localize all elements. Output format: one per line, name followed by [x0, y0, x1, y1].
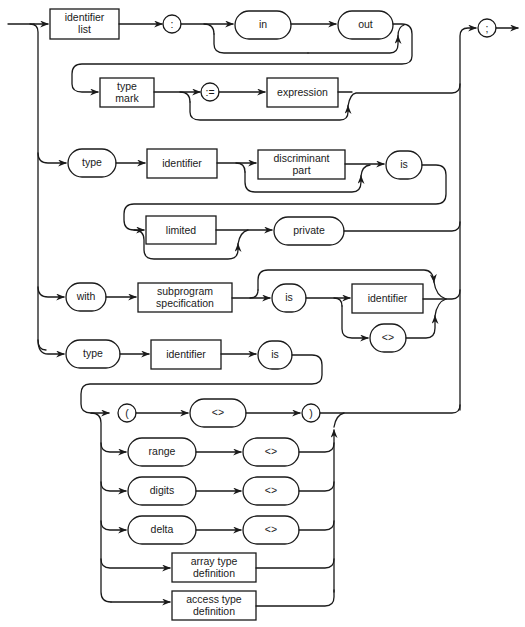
row-delta: delta <> [128, 516, 334, 544]
right-rail: ; [460, 19, 518, 410]
node-assign: := [201, 83, 219, 101]
svg-text:subprogram: subprogram [157, 285, 213, 297]
svg-text:in: in [259, 18, 267, 30]
node-is-1: is [386, 151, 422, 179]
row-digits: digits <> [128, 477, 334, 505]
svg-text:type: type [117, 80, 137, 92]
node-identifier-2: identifier [352, 284, 423, 313]
svg-text:limited: limited [166, 224, 197, 236]
svg-text:array type: array type [191, 555, 238, 567]
node-private: private [274, 217, 344, 245]
svg-text:;: ; [486, 22, 489, 34]
node-digits: digits [128, 477, 196, 505]
svg-text:<>: <> [265, 523, 277, 535]
svg-text:type: type [83, 347, 103, 359]
svg-text:identifier: identifier [166, 348, 206, 360]
svg-text:is: is [400, 158, 408, 170]
svg-text::=: := [205, 86, 214, 98]
node-with: with [66, 283, 106, 311]
node-identifier-3: identifier [151, 340, 221, 369]
node-range: range [128, 438, 196, 466]
main-spine [8, 24, 48, 350]
node-box-op-2: <> [190, 399, 246, 427]
node-lparen: ( [118, 404, 136, 422]
svg-text:<>: <> [212, 406, 224, 418]
syntax-diagram: identifier list : in out type mark [0, 0, 525, 627]
svg-text:discriminant: discriminant [273, 152, 329, 164]
node-limited: limited [146, 216, 216, 244]
node-identifier-1: identifier [147, 149, 217, 178]
svg-text:list: list [78, 23, 91, 35]
node-type-mark: type mark [100, 78, 154, 107]
row-access-type: access type definition [172, 590, 334, 620]
node-colon: : [163, 15, 181, 33]
svg-text:is: is [285, 291, 293, 303]
node-is-3: is [258, 341, 292, 369]
svg-text:identifier: identifier [65, 11, 105, 23]
row-paren-box: ( <> ) [118, 399, 460, 427]
svg-text:mark: mark [115, 92, 139, 104]
svg-text:expression: expression [277, 86, 328, 98]
row-generic-type: type identifier is [38, 340, 322, 413]
svg-text:access type: access type [186, 593, 242, 605]
node-box-op-3: <> [243, 438, 299, 466]
row-array-type: array type definition [172, 553, 334, 582]
node-delta: delta [128, 516, 196, 544]
node-type-1: type [68, 149, 116, 177]
node-box-op-1: <> [370, 324, 406, 352]
svg-text:definition: definition [193, 567, 235, 579]
svg-text:<>: <> [265, 445, 277, 457]
svg-text:is: is [271, 348, 279, 360]
svg-text:specification: specification [156, 297, 214, 309]
node-array-type-definition: array type definition [172, 553, 256, 582]
node-expression: expression [267, 78, 338, 107]
svg-text:<>: <> [265, 484, 277, 496]
node-semicolon: ; [478, 19, 496, 37]
svg-text::: : [171, 18, 174, 30]
svg-text:identifier: identifier [162, 157, 202, 169]
node-discriminant-part: discriminant part [258, 150, 345, 179]
node-access-type-definition: access type definition [172, 591, 256, 620]
node-in: in [235, 11, 291, 39]
node-type-2: type [66, 340, 120, 368]
node-identifier-list: identifier list [50, 9, 119, 39]
svg-text:delta: delta [151, 523, 174, 535]
node-out: out [338, 11, 393, 39]
svg-text:identifier: identifier [368, 292, 408, 304]
node-is-2: is [272, 284, 306, 312]
svg-text:part: part [292, 164, 310, 176]
svg-text:type: type [82, 156, 102, 168]
node-box-op-5: <> [243, 516, 299, 544]
node-box-op-4: <> [243, 477, 299, 505]
node-rparen: ) [302, 404, 320, 422]
row-range: range <> [128, 438, 334, 466]
svg-text:out: out [358, 18, 373, 30]
svg-text:private: private [293, 224, 325, 236]
node-subprogram-specification: subprogram specification [138, 283, 232, 312]
svg-text:range: range [149, 445, 176, 457]
svg-text:): ) [309, 407, 313, 419]
row-type-mark: type mark := expression [100, 78, 460, 120]
svg-text:definition: definition [193, 605, 235, 617]
svg-text:(: ( [125, 407, 129, 419]
svg-text:digits: digits [150, 484, 175, 496]
svg-text:<>: <> [382, 331, 394, 343]
svg-text:with: with [76, 290, 96, 302]
row-limited-private: limited private [146, 216, 460, 245]
row-private-type: type identifier discriminant part is [38, 149, 446, 259]
